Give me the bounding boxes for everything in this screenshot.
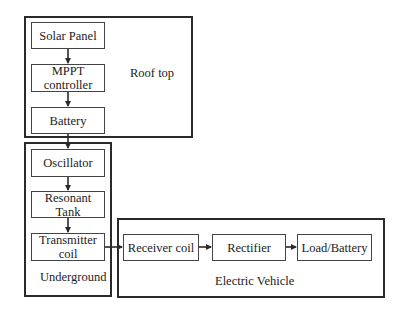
connection-arrows	[0, 0, 403, 312]
